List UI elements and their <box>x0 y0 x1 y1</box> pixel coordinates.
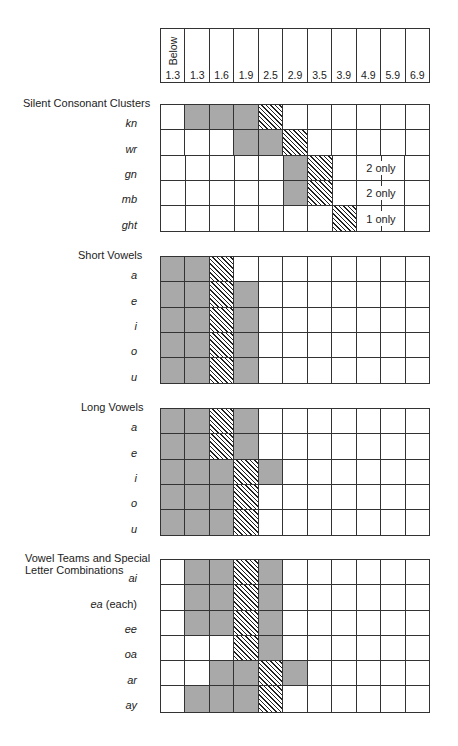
empty-cell <box>186 156 211 180</box>
empty-cell <box>308 206 333 231</box>
row-label: ar <box>127 674 137 686</box>
header-value: 4.9 <box>357 69 380 81</box>
divider-tick <box>381 200 382 205</box>
empty-cell <box>406 661 429 685</box>
empty-cell <box>259 434 283 458</box>
empty-cell <box>186 181 211 205</box>
table-row <box>161 358 429 383</box>
row-label: mb <box>122 193 137 205</box>
shaded-cell <box>185 460 209 484</box>
table-row <box>161 661 429 686</box>
hatched-cell <box>333 206 358 231</box>
empty-cell <box>333 181 358 205</box>
empty-cell <box>210 156 235 180</box>
empty-cell <box>381 130 405 154</box>
empty-cell <box>406 485 429 509</box>
empty-cell <box>283 510 307 535</box>
empty-cell <box>332 485 356 509</box>
empty-cell <box>406 611 429 635</box>
empty-cell <box>308 485 332 509</box>
hatched-cell <box>234 585 258 609</box>
shaded-cell <box>259 460 283 484</box>
empty-cell <box>357 282 381 306</box>
empty-cell <box>406 358 429 383</box>
empty-cell <box>357 636 381 660</box>
shaded-cell <box>210 105 234 129</box>
empty-cell <box>381 661 405 685</box>
shaded-cell <box>234 409 258 433</box>
empty-cell <box>406 308 429 332</box>
empty-cell <box>357 585 381 609</box>
shaded-cell <box>259 130 283 154</box>
empty-cell <box>161 181 186 205</box>
empty-cell <box>406 257 429 281</box>
empty-cell <box>283 485 307 509</box>
grid-vowel-teams <box>160 559 430 713</box>
empty-cell <box>185 636 209 660</box>
shaded-cell <box>185 434 209 458</box>
grade-level-header: Below 1.3 1.3 1.6 1.9 2.5 2.9 3.5 3.9 4.… <box>160 28 430 83</box>
shaded-cell <box>210 485 234 509</box>
empty-cell <box>405 206 429 231</box>
empty-cell <box>332 661 356 685</box>
hatched-cell <box>308 181 333 205</box>
empty-cell <box>332 686 356 711</box>
shaded-cell <box>185 308 209 332</box>
grid-silent-consonant-clusters: 2 only2 only1 only <box>160 104 430 232</box>
shaded-cell <box>185 611 209 635</box>
header-value: 2.5 <box>259 69 282 81</box>
shaded-cell <box>234 661 258 685</box>
empty-cell <box>283 257 307 281</box>
empty-cell <box>161 105 185 129</box>
empty-cell <box>406 560 429 584</box>
shaded-cell <box>234 308 258 332</box>
header-value: 3.5 <box>308 69 331 81</box>
empty-cell <box>161 156 186 180</box>
empty-cell <box>357 485 381 509</box>
header-value: 1.9 <box>234 69 257 81</box>
empty-cell <box>381 257 405 281</box>
empty-cell <box>161 130 185 154</box>
empty-cell <box>357 409 381 433</box>
shaded-cell <box>185 560 209 584</box>
shaded-cell <box>234 686 258 711</box>
header-cell: 1.9 <box>234 29 258 82</box>
shaded-cell <box>161 333 185 357</box>
shaded-cell <box>185 282 209 306</box>
empty-cell <box>381 611 405 635</box>
empty-cell <box>406 105 429 129</box>
hatched-cell <box>234 485 258 509</box>
empty-cell <box>283 585 307 609</box>
empty-cell <box>185 130 209 154</box>
shaded-cell <box>259 560 283 584</box>
empty-cell <box>308 611 332 635</box>
table-row <box>161 510 429 535</box>
empty-cell <box>381 434 405 458</box>
shaded-cell <box>234 105 258 129</box>
empty-cell <box>406 636 429 660</box>
row-label: i <box>135 320 137 332</box>
empty-cell <box>259 358 283 383</box>
shaded-cell <box>210 510 234 535</box>
shaded-cell <box>161 358 185 383</box>
empty-cell <box>357 130 381 154</box>
shaded-cell <box>210 460 234 484</box>
empty-cell <box>308 333 332 357</box>
empty-cell <box>161 611 185 635</box>
empty-cell <box>259 282 283 306</box>
empty-cell <box>381 510 405 535</box>
table-row <box>161 308 429 333</box>
empty-cell: 2 only <box>357 156 381 180</box>
shaded-cell <box>185 409 209 433</box>
header-value: 1.6 <box>210 69 233 81</box>
hatched-cell <box>210 257 234 281</box>
empty-cell <box>283 409 307 433</box>
empty-cell: 2 only <box>357 181 381 205</box>
empty-cell <box>357 611 381 635</box>
empty-cell <box>381 460 405 484</box>
hatched-cell <box>234 460 258 484</box>
hatched-cell <box>234 611 258 635</box>
empty-cell <box>308 460 332 484</box>
empty-cell <box>332 282 356 306</box>
shaded-cell <box>284 156 309 180</box>
